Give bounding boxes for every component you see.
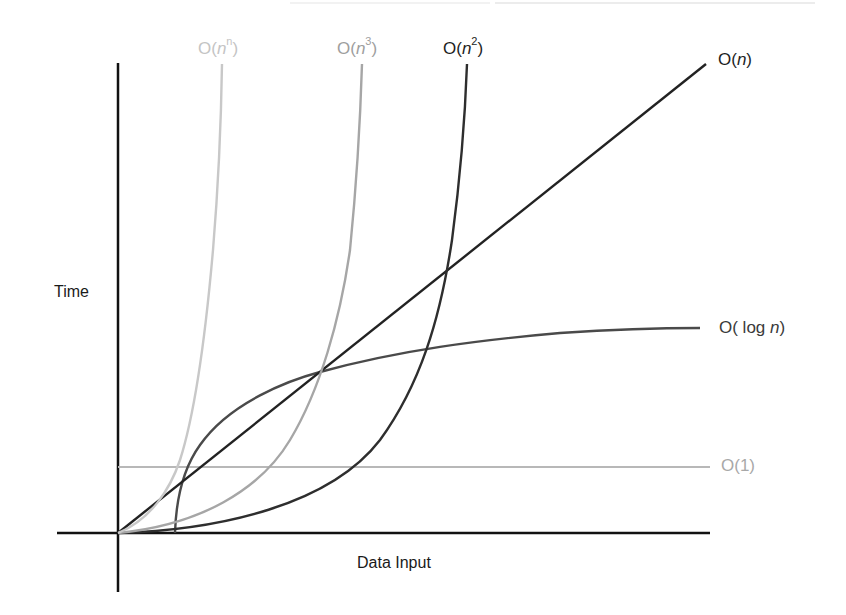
label-text: O(	[198, 39, 217, 58]
label-text: 1)	[740, 456, 755, 475]
label-o-n-squared: O(n2)	[443, 38, 483, 57]
label-o-log-n: O( log n)	[719, 319, 785, 336]
label-var: n	[356, 39, 365, 58]
label-var: n	[217, 39, 226, 58]
x-axis-label: Data Input	[357, 554, 431, 572]
label-o-n: O(n)	[718, 51, 752, 68]
label-exp: 2	[471, 35, 477, 47]
series-o-n-cubed	[118, 64, 362, 533]
label-o-n-n: O(nn)	[198, 38, 238, 57]
label-var: n	[737, 50, 746, 69]
y-axis-label: Time	[54, 283, 89, 301]
label-text: O(	[718, 50, 737, 69]
label-exp: n	[226, 35, 232, 47]
label-o-n-cubed: O(n3)	[337, 38, 377, 57]
label-text: O(	[337, 39, 356, 58]
label-var: n	[770, 318, 779, 337]
series-o-n	[118, 64, 706, 533]
series-o-n-squared	[118, 64, 467, 533]
label-text: )	[232, 39, 238, 58]
label-var: n	[462, 39, 471, 58]
label-text: )	[477, 39, 483, 58]
label-text: O(	[721, 456, 740, 475]
label-text: )	[780, 318, 786, 337]
complexity-chart	[0, 0, 846, 615]
label-exp: 3	[365, 35, 371, 47]
label-text: O(	[443, 39, 462, 58]
label-text: O( log	[719, 318, 770, 337]
label-o-1: O(1)	[721, 457, 755, 474]
series-o-log-n	[175, 328, 700, 533]
label-text: )	[371, 39, 377, 58]
label-text: )	[746, 50, 752, 69]
